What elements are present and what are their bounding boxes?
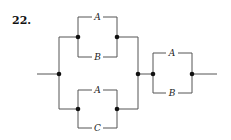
junction-node (57, 72, 62, 77)
junction-node (115, 35, 120, 40)
switch-label-lower-top: A (93, 85, 101, 95)
circuit-diagram: A B A C A B (0, 0, 231, 140)
junction-node (190, 72, 195, 77)
lower-parallel-ac: A C (78, 85, 117, 133)
upper-parallel-ab: A B (78, 12, 117, 62)
left-split-wire (59, 37, 78, 109)
junction-node (76, 35, 81, 40)
switch-label-upper-top: A (93, 12, 101, 22)
switch-label-lower-bottom: C (94, 123, 101, 133)
right-parallel-ab: A B (153, 48, 192, 98)
junction-node (76, 107, 81, 112)
left-merge-wire (117, 37, 138, 109)
junction-node (115, 107, 120, 112)
junction-node (151, 72, 156, 77)
switch-label-upper-bottom: B (93, 52, 101, 62)
junction-node (136, 72, 141, 77)
switch-label-right-top: A (168, 48, 176, 58)
switch-label-right-bottom: B (168, 88, 176, 98)
